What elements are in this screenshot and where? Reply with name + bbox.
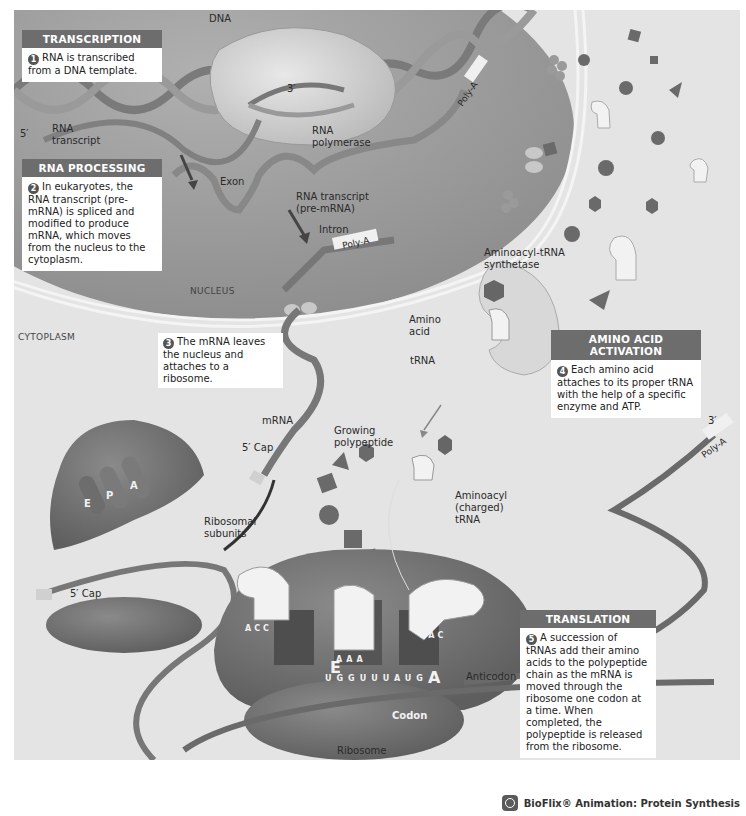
step-number-badge: 4 [557,366,568,377]
intron-label: Intron [319,224,349,236]
site-p-label: P [106,490,113,502]
bioflix-icon [502,795,518,811]
step-number-badge: 3 [163,338,174,349]
synthetase-label: Aminoacyl-tRNA synthetase [484,247,565,271]
rna-transcript-label: RNA transcript [52,123,100,147]
five-prime-label: 5′ [20,128,29,140]
site-e-label: E [84,498,91,510]
step-heading: TRANSLATION [520,610,656,628]
three-prime-label: 3′ [708,415,717,427]
anticodon-label: Anticodon [466,671,516,683]
cytoplasm-label: CYTOPLASM [18,332,75,342]
nucleus-label: NUCLEUS [190,286,235,296]
step-mrna-export: 3The mRNA leaves the nucleus and attache… [158,333,283,388]
aminoacyl-trna-label: Aminoacyl (charged) tRNA [455,490,507,526]
step-text: Each amino acid attaches to its proper t… [557,364,693,412]
ribosome-label: Ribosome [337,745,386,757]
pre-mrna-label: RNA transcript (pre-mRNA) [296,191,369,215]
aminoacyl-trna-synthetase [479,262,559,375]
step-number-badge: 1 [28,54,39,65]
exon-label: Exon [220,176,244,188]
amino-acid-label: Amino acid [409,314,441,338]
step-number-badge: 5 [526,634,537,645]
step-heading: AMINO ACID ACTIVATION [551,330,701,360]
free-trnas [591,101,708,280]
step-text: RNA is transcribed from a DNA template. [28,52,137,76]
dna-label: DNA [209,13,231,25]
five-cap-label: 5′ Cap [70,588,101,600]
step-amino-acid-activation: AMINO ACID ACTIVATION 4Each amino acid a… [551,330,701,418]
five-cap-label: 5′ Cap [242,442,273,454]
step-translation: TRANSLATION 5A succession of tRNAs add t… [520,610,656,758]
ribosome-a-site-label: A [428,672,440,684]
anticodon-a-site: UAC [419,630,446,642]
site-a-label: A [130,480,138,492]
growing-polypeptide-label: Growing polypeptide [334,425,393,449]
bioflix-footer[interactable]: BioFlix® Animation: Protein Synthesis [502,795,740,811]
step-heading: RNA PROCESSING [22,159,162,177]
three-prime-label: 3′ [287,83,296,95]
step-number-badge: 2 [28,183,39,194]
anticodon-e-site: ACC [245,623,272,635]
footer-text: BioFlix® Animation: Protein Synthesis [524,798,740,809]
step-transcription: TRANSCRIPTION 1RNA is transcribed from a… [22,30,162,82]
charged-trna [412,435,452,480]
step-rna-processing: RNA PROCESSING 2In eukaryotes, the RNA t… [22,159,162,271]
step-text: A succession of tRNAs add their amino ac… [526,632,647,752]
mrna-label: mRNA [262,415,293,427]
diagram-panel: TRANSCRIPTION 1RNA is transcribed from a… [14,10,740,760]
ribosome [214,549,533,760]
mrna-free-ribbon [39,564,234,760]
rna-polymerase-label: RNA polymerase [312,125,371,149]
mrna-codon-sequence: UGGUUUAUG [325,673,428,685]
step-text: The mRNA leaves the nucleus and attaches… [163,336,265,384]
codon-label: Codon [392,710,427,722]
step-heading: TRANSCRIPTION [22,30,162,48]
ribosomal-subunits-label: Ribosomal subunits [204,516,256,540]
ribosomal-subunits [46,420,204,653]
trna-label: tRNA [410,355,435,367]
step-text: In eukaryotes, the RNA transcript (pre-m… [28,181,146,265]
